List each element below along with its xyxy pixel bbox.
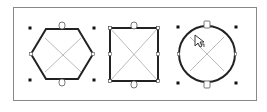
connection-point-top[interactable] bbox=[131, 22, 137, 29]
connection-point-left[interactable] bbox=[109, 53, 112, 56]
connection-point-left[interactable] bbox=[30, 53, 33, 56]
connection-point-top[interactable] bbox=[204, 21, 210, 28]
connection-point-right[interactable] bbox=[235, 53, 237, 56]
selection-handle[interactable] bbox=[109, 27, 112, 30]
connection-point-left[interactable] bbox=[178, 53, 180, 56]
selection-handle[interactable] bbox=[29, 27, 32, 30]
connection-point-bottom[interactable] bbox=[59, 79, 65, 86]
drawing-canvas[interactable] bbox=[0, 0, 267, 112]
shapes-svg bbox=[0, 0, 267, 112]
connection-point-bottom[interactable] bbox=[204, 81, 210, 88]
connection-point-top[interactable] bbox=[59, 22, 65, 29]
circle-shape[interactable] bbox=[177, 21, 238, 88]
selection-handle[interactable] bbox=[177, 26, 180, 29]
selection-handle[interactable] bbox=[235, 26, 238, 29]
connection-point-right[interactable] bbox=[157, 53, 160, 56]
selection-handle[interactable] bbox=[157, 80, 160, 83]
selection-handle[interactable] bbox=[109, 80, 112, 83]
rectangle-shape[interactable] bbox=[109, 22, 160, 88]
move-pointer-icon bbox=[195, 35, 204, 47]
selection-handle[interactable] bbox=[235, 82, 238, 85]
selection-handle[interactable] bbox=[29, 79, 32, 82]
selection-handle[interactable] bbox=[157, 27, 160, 30]
connection-point-right[interactable] bbox=[92, 53, 95, 56]
hexagon-shape[interactable] bbox=[29, 22, 96, 86]
selection-handle[interactable] bbox=[93, 27, 96, 30]
selection-handle[interactable] bbox=[177, 82, 180, 85]
selection-handle[interactable] bbox=[93, 79, 96, 82]
connection-point-bottom[interactable] bbox=[131, 81, 137, 88]
